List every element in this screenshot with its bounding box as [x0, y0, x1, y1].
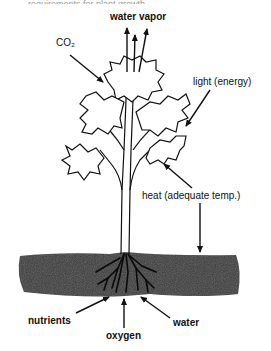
water-arrow [141, 297, 170, 318]
light-label: light (energy) [193, 77, 251, 87]
plant-illustration [0, 0, 271, 351]
nutrients-label: nutrients [28, 316, 71, 326]
soil-block [19, 252, 240, 297]
light-arrow [186, 90, 210, 126]
water-label: water [173, 318, 199, 328]
nutrients-arrow [76, 297, 109, 313]
leaves [62, 56, 190, 180]
co2-label: CO₂ [56, 38, 75, 48]
plant-requirements-diagram: requirements for plant growth [0, 0, 271, 351]
co2-arrow [70, 55, 103, 82]
water-vapor-label: water vapor [110, 12, 166, 22]
oxygen-label: oxygen [106, 331, 141, 341]
water-vapor-arrow-2 [134, 35, 135, 72]
heat-label: heat (adequate temp.) [142, 191, 240, 201]
heat-leaf-arrow [164, 164, 192, 188]
